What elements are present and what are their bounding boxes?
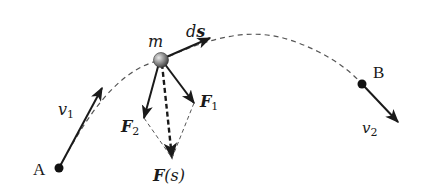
- fs-label: F(s): [153, 168, 185, 184]
- ds-label: ds: [186, 24, 205, 40]
- f2-symbol: F: [121, 117, 132, 136]
- point-a-dot: [55, 164, 64, 173]
- v1-label: v1: [58, 102, 74, 120]
- f1-symbol: F: [200, 92, 211, 111]
- v1-subscript: 1: [67, 108, 74, 121]
- point-a-label: A: [33, 161, 45, 178]
- f2-label: F2: [121, 119, 139, 137]
- point-b-label: B: [373, 64, 384, 81]
- f2-arrow: [144, 63, 159, 118]
- fs-arrow: [162, 64, 172, 158]
- ds-s: s: [196, 22, 205, 41]
- v2-subscript: 2: [370, 126, 377, 139]
- f1-arrow: [164, 63, 194, 103]
- ds-arrow: [164, 38, 210, 58]
- point-b-dot: [358, 80, 367, 89]
- ds-d: d: [186, 22, 196, 41]
- mass-ball: [154, 53, 169, 68]
- v2-arrow: [362, 84, 398, 122]
- fs-symbol: F: [153, 166, 164, 185]
- parallelogram-edge-f1: [172, 103, 194, 158]
- v2-label: v2: [362, 121, 377, 138]
- fs-argument: (s): [164, 166, 185, 185]
- f1-subscript: 1: [211, 100, 218, 113]
- v1-symbol: v: [58, 100, 67, 119]
- f1-label: F1: [200, 94, 218, 112]
- mass-label: m: [148, 34, 163, 50]
- f2-subscript: 2: [132, 125, 139, 138]
